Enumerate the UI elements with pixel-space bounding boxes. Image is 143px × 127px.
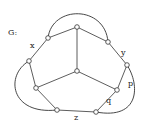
edge-bl-br (57, 110, 96, 112)
graph-title: G: (8, 29, 17, 37)
node-rl (115, 88, 120, 93)
edge-label-x: x (30, 42, 35, 50)
edge-label-q: q (106, 97, 111, 105)
edge-c-ll (36, 71, 77, 88)
edge-l-ll (29, 61, 36, 88)
node-ul (46, 36, 51, 41)
edge-rt-rl (117, 65, 127, 90)
node-rt (125, 63, 130, 68)
node-ur (106, 40, 111, 45)
edge-c-rl (77, 71, 117, 90)
node-br (94, 110, 99, 115)
edge-top-ul (48, 27, 77, 38)
node-c (75, 69, 80, 74)
graph-diagram: G:xypqz (0, 0, 143, 127)
node-l (27, 59, 32, 64)
graph-svg (0, 0, 143, 127)
edge-top-ur (77, 27, 108, 42)
edge-label-p: p (128, 80, 133, 88)
node-top (75, 25, 80, 30)
edge-label-z: z (74, 114, 78, 122)
edge-ll-bl (36, 88, 57, 110)
node-ll (34, 86, 39, 91)
node-bl (55, 108, 60, 113)
edge-label-y: y (121, 49, 126, 57)
